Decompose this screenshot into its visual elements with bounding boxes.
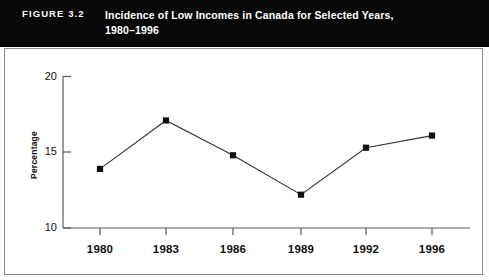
figure-title-line-2: 1980–1996: [105, 23, 475, 38]
y-tick-label-15: 15: [31, 145, 57, 157]
figure-header-banner: FIGURE 3.2 Incidence of Low Incomes in C…: [0, 0, 489, 47]
y-tick-label-10: 10: [31, 221, 57, 233]
chart-panel: [4, 48, 483, 275]
x-tick-label-1986: 1986: [210, 243, 256, 255]
figure-title-line-1: Incidence of Low Incomes in Canada for S…: [105, 9, 394, 21]
x-tick-label-1989: 1989: [278, 243, 324, 255]
x-tick-label-1992: 1992: [343, 243, 389, 255]
x-tick-label-1983: 1983: [143, 243, 189, 255]
figure-container: FIGURE 3.2 Incidence of Low Incomes in C…: [0, 0, 489, 280]
figure-title: Incidence of Low Incomes in Canada for S…: [105, 8, 475, 38]
figure-number-label: FIGURE 3.2: [22, 8, 85, 19]
y-tick-label-20: 20: [31, 70, 57, 82]
x-tick-label-1996: 1996: [409, 243, 455, 255]
x-tick-label-1980: 1980: [77, 243, 123, 255]
